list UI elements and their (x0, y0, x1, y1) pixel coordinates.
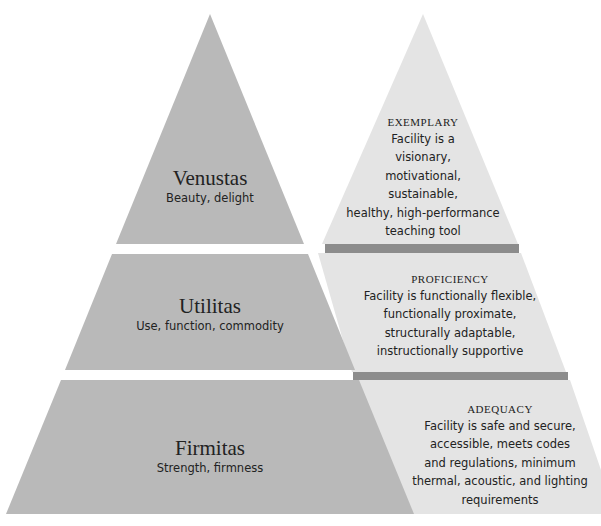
label-exemplary: EXEMPLARY Facility is a visionary, motiv… (330, 114, 516, 240)
level-heading: EXEMPLARY (330, 114, 516, 130)
label-utilitas: Utilitas Use, function, commodity (80, 294, 340, 334)
band-title: Venustas (110, 166, 310, 190)
label-adequacy: ADEQUACY Facility is safe and secure, ac… (400, 401, 600, 509)
label-proficiency: PROFICIENCY Facility is functionally fle… (340, 271, 560, 361)
level-description: Facility is a visionary, motivational, s… (330, 130, 516, 240)
label-venustas: Venustas Beauty, delight (110, 166, 310, 206)
divider-bar-2 (353, 372, 568, 380)
level-heading: ADEQUACY (400, 401, 600, 417)
level-heading: PROFICIENCY (340, 271, 560, 287)
band-subtitle: Beauty, delight (110, 190, 310, 206)
level-description: Facility is functionally flexible, funct… (340, 287, 560, 361)
band-venustas (116, 14, 304, 244)
divider-bar-1 (325, 244, 519, 253)
band-subtitle: Use, function, commodity (80, 318, 340, 334)
band-title: Utilitas (80, 294, 340, 318)
label-firmitas: Firmitas Strength, firmness (100, 436, 320, 476)
band-subtitle: Strength, firmness (100, 460, 320, 476)
band-title: Firmitas (100, 436, 320, 460)
level-description: Facility is safe and secure, accessible,… (400, 417, 600, 509)
